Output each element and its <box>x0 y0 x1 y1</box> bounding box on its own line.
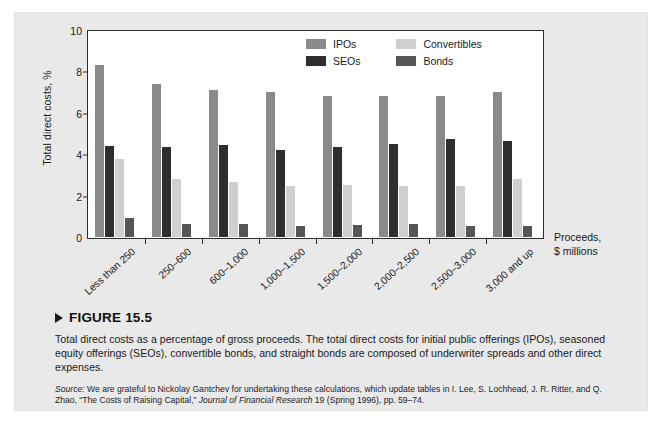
legend-swatch-convertibles <box>396 39 416 49</box>
bar-group <box>89 32 146 237</box>
x-axis-category-label: 1,500–2,000 <box>315 246 364 292</box>
y-axis-tick-label: 10 <box>70 25 82 37</box>
x-axis-tick-mark <box>259 239 260 244</box>
y-axis-tick-label: 4 <box>76 149 82 161</box>
x-axis-category-label: 250–600 <box>157 246 194 281</box>
bar-seos <box>276 150 285 237</box>
figure-page: Total direct costs, % 0246810 Less than … <box>0 0 662 423</box>
bar-seos <box>389 144 398 237</box>
legend-item: SEOs <box>306 55 360 67</box>
source-journal-title: Journal of Financial Research <box>199 395 313 405</box>
source-label: Source: <box>55 384 85 394</box>
figure-source-note: Source: We are grateful to Nickolay Gant… <box>55 384 617 407</box>
figure-caption-block: FIGURE 15.5 Total direct costs as a perc… <box>55 310 617 406</box>
bar-convertibles <box>399 186 408 237</box>
y-axis-tick-mark <box>83 72 88 73</box>
bar-convertibles <box>115 159 124 237</box>
chart-legend: IPOsConvertiblesSEOsBonds <box>306 38 482 67</box>
source-text-part-2: 19 (Spring 1996), pp. 59–74. <box>312 395 424 405</box>
proceeds-line-2: $ millions <box>554 244 601 258</box>
bar-convertibles <box>286 186 295 237</box>
x-axis-category-label: 2,500–3,000 <box>429 246 478 292</box>
legend-swatch-seos <box>306 56 326 66</box>
bar-bonds <box>466 226 475 237</box>
figure-panel: Total direct costs, % 0246810 Less than … <box>14 12 648 411</box>
bar-seos <box>219 145 228 237</box>
x-axis-category-label: 3,000 and up <box>483 246 535 294</box>
x-axis-annotation: Proceeds, $ millions <box>554 230 601 258</box>
bar-ipos <box>323 96 332 237</box>
y-axis-tick-label: 8 <box>76 66 82 78</box>
legend-label: Convertibles <box>423 38 481 50</box>
x-axis-tick-mark <box>486 239 487 244</box>
y-axis-tick-label: 2 <box>76 191 82 203</box>
y-axis-tick-mark <box>83 155 88 156</box>
bar-bonds <box>523 226 532 237</box>
bar-group <box>146 32 203 237</box>
bar-ipos <box>266 92 275 237</box>
bar-bonds <box>182 224 191 237</box>
bar-group <box>203 32 260 237</box>
x-axis-category-label: Less than 250 <box>82 246 137 297</box>
bar-bonds <box>409 224 418 237</box>
bar-convertibles <box>229 182 238 237</box>
y-axis-tick-label: 0 <box>76 232 82 244</box>
bar-ipos <box>95 65 104 237</box>
bar-convertibles <box>456 186 465 237</box>
bar-convertibles <box>513 179 522 237</box>
bar-ipos <box>379 96 388 237</box>
x-axis-tick-mark <box>202 239 203 244</box>
bar-convertibles <box>172 179 181 237</box>
bar-convertibles <box>343 185 352 237</box>
x-axis-tick-mark <box>316 239 317 244</box>
x-axis-category-label: 1,000–1,500 <box>258 246 307 292</box>
bar-seos <box>446 139 455 237</box>
y-axis-tick-mark <box>83 113 88 114</box>
figure-number: FIGURE 15.5 <box>69 310 152 325</box>
legend-label: IPOs <box>333 38 356 50</box>
y-axis-tick-label: 6 <box>76 108 82 120</box>
bar-bonds <box>239 224 248 237</box>
bar-bonds <box>125 218 134 237</box>
x-axis-tick-mark <box>145 239 146 244</box>
y-axis-title: Total direct costs, % <box>41 33 53 203</box>
y-axis-tick-mark <box>83 196 88 197</box>
x-axis-tick-mark <box>372 239 373 244</box>
bar-ipos <box>209 90 218 237</box>
bar-group <box>487 32 544 237</box>
x-axis-category-label: 600–1,000 <box>207 246 250 286</box>
legend-swatch-bonds <box>396 56 416 66</box>
legend-swatch-ipos <box>306 39 326 49</box>
bar-chart: Total direct costs, % 0246810 Less than … <box>14 12 648 312</box>
bar-bonds <box>353 225 362 237</box>
bar-ipos <box>493 92 502 237</box>
bar-seos <box>503 141 512 237</box>
legend-item: Convertibles <box>396 38 481 50</box>
x-axis-tick-mark <box>429 239 430 244</box>
bar-seos <box>162 147 171 237</box>
figure-heading: FIGURE 15.5 <box>55 310 617 325</box>
bar-seos <box>333 147 342 237</box>
bar-ipos <box>152 84 161 237</box>
bar-bonds <box>296 226 305 237</box>
figure-caption-text: Total direct costs as a percentage of gr… <box>55 332 617 375</box>
x-axis-category-label: 2,000–2,500 <box>372 246 421 292</box>
proceeds-line-1: Proceeds, <box>554 230 601 244</box>
play-triangle-icon <box>55 313 63 323</box>
bar-seos <box>105 146 114 237</box>
legend-label: SEOs <box>333 55 360 67</box>
legend-item: Bonds <box>396 55 481 67</box>
bar-ipos <box>436 96 445 237</box>
legend-item: IPOs <box>306 38 360 50</box>
legend-label: Bonds <box>423 55 453 67</box>
